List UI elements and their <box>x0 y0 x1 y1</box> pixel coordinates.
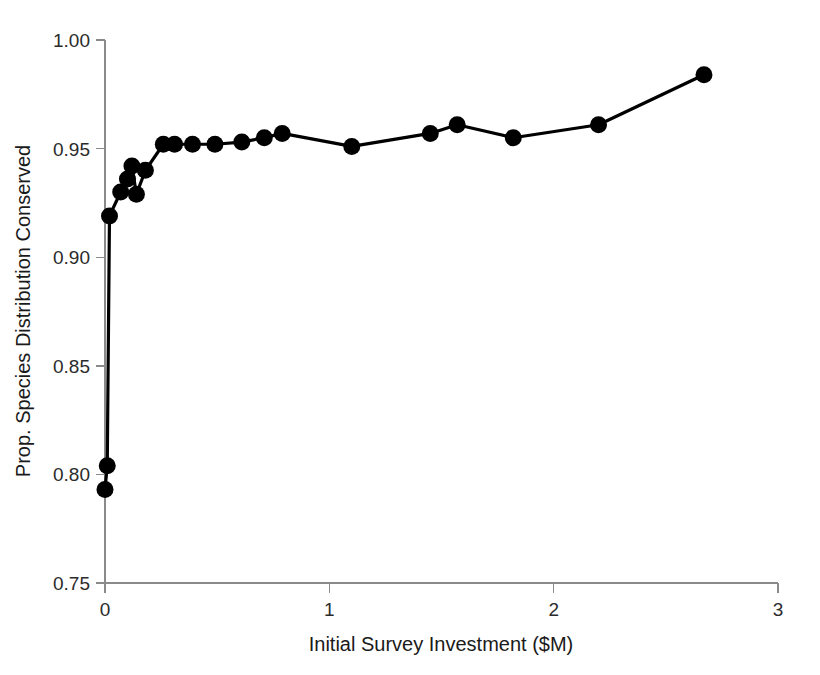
y-tick-label: 0.85 <box>53 356 90 377</box>
data-point <box>343 138 360 155</box>
chart-figure: 0.750.800.850.900.951.00 Prop. Species D… <box>0 0 820 675</box>
data-point <box>449 116 466 133</box>
line-chart: 0.750.800.850.900.951.00 Prop. Species D… <box>0 0 820 675</box>
data-point <box>166 136 183 153</box>
data-point <box>590 116 607 133</box>
data-point <box>99 457 116 474</box>
data-point <box>274 125 291 142</box>
x-tick-label: 0 <box>100 599 111 620</box>
data-point <box>97 481 114 498</box>
data-point <box>101 207 118 224</box>
x-tick-label: 1 <box>324 599 335 620</box>
data-point <box>695 66 712 83</box>
y-tick-label: 0.80 <box>53 464 90 485</box>
x-axis-title: Initial Survey Investment ($M) <box>309 633 574 655</box>
y-tick-label: 1.00 <box>53 30 90 51</box>
data-point <box>256 129 273 146</box>
data-point <box>128 186 145 203</box>
data-point <box>505 129 522 146</box>
data-point <box>206 136 223 153</box>
chart-background <box>0 0 820 675</box>
x-tick-label: 2 <box>548 599 559 620</box>
y-tick-label: 0.75 <box>53 573 90 594</box>
data-point <box>422 125 439 142</box>
y-tick-label: 0.95 <box>53 139 90 160</box>
y-axis-title: Prop. Species Distribution Conserved <box>12 145 34 477</box>
data-point <box>137 162 154 179</box>
data-point <box>233 134 250 151</box>
x-tick-label: 3 <box>773 599 784 620</box>
data-point <box>184 136 201 153</box>
y-tick-label: 0.90 <box>53 247 90 268</box>
